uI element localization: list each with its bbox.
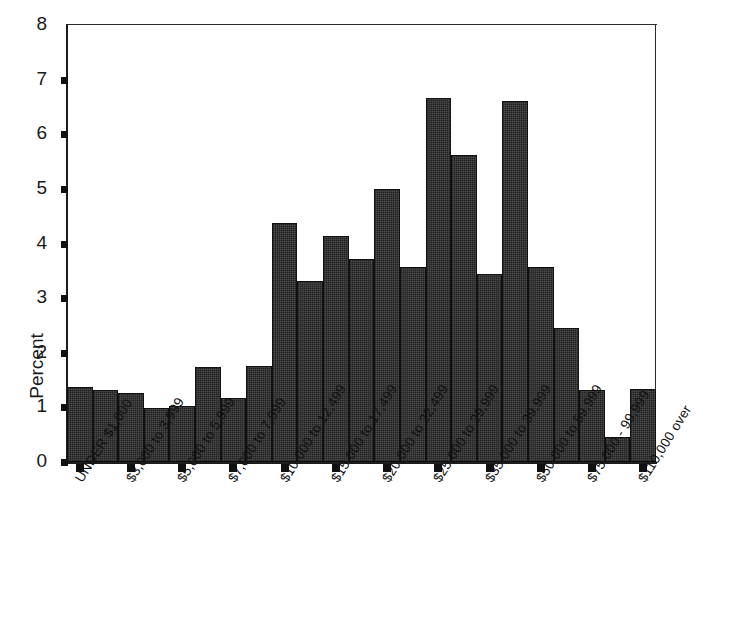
y-tick-label: 5 (23, 177, 47, 199)
y-tick-label: 0 (23, 450, 47, 472)
x-axis-line (66, 462, 657, 464)
y-tick-label: 6 (23, 122, 47, 144)
y-tick-label: 8 (23, 13, 47, 35)
chart-container: Percent 012345678 UNDER $1,000$3,000 to … (0, 0, 739, 620)
bar-series (67, 25, 656, 462)
bar (323, 236, 349, 462)
y-tick-label: 2 (23, 341, 47, 363)
y-tick-label: 3 (23, 286, 47, 308)
bar (477, 274, 503, 462)
y-tick-label: 4 (23, 232, 47, 254)
y-tick-label: 1 (23, 395, 47, 417)
bar (272, 223, 298, 462)
bar (528, 267, 554, 462)
y-tick-label: 7 (23, 68, 47, 90)
